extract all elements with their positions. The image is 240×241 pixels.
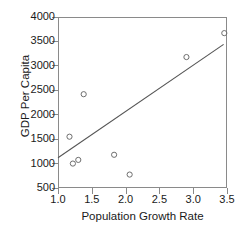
x-tick-label-2.0: 2.0	[111, 194, 141, 205]
plot-area-frame	[58, 17, 227, 188]
y-axis-title: GDP Per Capita	[19, 16, 31, 176]
y-tick-label-1500: 1500	[31, 133, 55, 144]
x-tick-label-2.5: 2.5	[144, 194, 174, 205]
x-axis-title: Population Growth Rate	[58, 210, 227, 222]
y-tick-label-4000: 4000	[31, 11, 55, 22]
y-tick-label-2500: 2500	[31, 84, 55, 95]
scatter-chart-figure: 4000350030002500200015001000500 1.01.52.…	[0, 0, 240, 241]
y-tick-label-1000: 1000	[31, 158, 55, 169]
x-tick-label-1.5: 1.5	[77, 194, 107, 205]
y-tick-label-2000: 2000	[31, 109, 55, 120]
y-tick-label-3000: 3000	[31, 60, 55, 71]
y-tick-label-3500: 3500	[31, 35, 55, 46]
x-tick-label-3.5: 3.5	[212, 194, 240, 205]
x-tick-label-1.0: 1.0	[43, 194, 73, 205]
y-tick-label-500: 500	[37, 182, 55, 193]
x-tick-label-3.0: 3.0	[178, 194, 208, 205]
